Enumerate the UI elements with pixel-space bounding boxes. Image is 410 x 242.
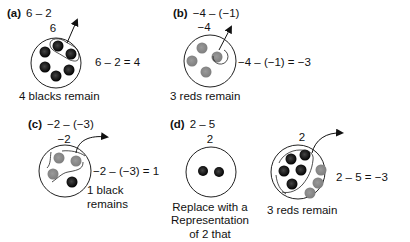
red-counter bbox=[313, 178, 324, 189]
panel-c-expression: −2 – (−3) bbox=[47, 118, 94, 130]
svg-text:(c)−2 – (−3): (c)−2 – (−3) bbox=[28, 118, 94, 130]
panel-b-circle-value: −4 bbox=[197, 21, 211, 33]
black-counter bbox=[40, 47, 51, 58]
panel-b-counters bbox=[187, 43, 223, 78]
black-counter bbox=[296, 165, 307, 176]
red-counter bbox=[201, 67, 212, 78]
black-counter bbox=[51, 71, 62, 82]
panel-c-caption-line1: 1 black bbox=[87, 184, 124, 196]
panel-d-replaced: 2 2 – 5 = −3 3 reds remain bbox=[267, 131, 388, 216]
panel-d-caption-line1: Replace with a bbox=[172, 201, 248, 213]
integer-subtraction-diagram: (a)6 – 2 6 6 – 2 = 4 4 blacks remain (b)… bbox=[0, 0, 410, 242]
panel-a-caption: 4 blacks remain bbox=[19, 90, 100, 102]
panel-b-expression: −4 – (−1) bbox=[193, 7, 240, 19]
panel-c: (c)−2 – (−3) −2 −2 – (−3) = 1 1 black re… bbox=[28, 118, 159, 210]
red-counter bbox=[54, 153, 65, 164]
panel-d-label: (d) bbox=[170, 118, 185, 130]
black-counter bbox=[66, 49, 77, 60]
panel-a-expression: 6 – 2 bbox=[26, 7, 52, 19]
panel-a-label: (a) bbox=[7, 7, 21, 19]
panel-c-caption-line2: remains bbox=[87, 198, 128, 210]
panel-a-circle-value: 6 bbox=[50, 22, 56, 34]
black-counter bbox=[198, 166, 208, 176]
panel-a: (a)6 – 2 6 6 – 2 = 4 4 blacks remain bbox=[7, 7, 141, 102]
panel-b-remove-arrow bbox=[219, 27, 231, 50]
panel-b-result: −4 – (−1) = −3 bbox=[238, 56, 311, 68]
black-counter bbox=[67, 177, 78, 188]
red-counter bbox=[197, 43, 208, 54]
panel-c-result: −2 – (−3) = 1 bbox=[93, 165, 159, 177]
panel-d-expression: 2 – 5 bbox=[190, 118, 216, 130]
panel-a-result: 6 – 2 = 4 bbox=[95, 56, 141, 68]
panel-d-replaced-caption: 3 reds remain bbox=[267, 204, 337, 216]
black-counter bbox=[300, 150, 311, 161]
red-counter bbox=[187, 56, 198, 67]
panel-c-circle-value: −2 bbox=[57, 133, 70, 145]
panel-b: (b)−4 – (−1) −4 −4 – (−1) = −3 3 reds re… bbox=[170, 7, 311, 102]
panel-b-label: (b) bbox=[173, 7, 188, 19]
svg-text:(b)−4 – (−1): (b)−4 – (−1) bbox=[173, 7, 240, 19]
panel-d-set-circle bbox=[186, 147, 236, 197]
panel-a-counters bbox=[40, 41, 77, 82]
panel-d-circle-value: 2 bbox=[207, 133, 213, 145]
black-counter bbox=[214, 167, 224, 177]
panel-d: (d)2 – 5 2 Replace with a Representation… bbox=[170, 118, 388, 240]
panel-d-replaced-result: 2 – 5 = −3 bbox=[336, 171, 388, 183]
panel-d-caption-line3: of 2 that bbox=[189, 228, 231, 240]
red-counter bbox=[305, 188, 316, 199]
panel-d-caption-line2: Representation bbox=[171, 214, 249, 226]
panel-c-label: (c) bbox=[28, 118, 42, 130]
black-counter bbox=[64, 65, 75, 76]
panel-a-remove-arrow bbox=[67, 20, 77, 43]
panel-d-counters bbox=[198, 166, 224, 177]
panel-d-replaced-counters bbox=[279, 150, 327, 199]
black-counter bbox=[53, 41, 64, 52]
black-counter bbox=[286, 154, 297, 165]
panel-d-replaced-circle-value: 2 bbox=[299, 131, 305, 143]
black-counter bbox=[287, 179, 298, 190]
red-counter bbox=[316, 165, 327, 176]
panel-c-set-circle bbox=[39, 145, 91, 197]
panel-d-remove-arrow bbox=[312, 133, 342, 153]
black-counter bbox=[279, 166, 290, 177]
panel-b-caption: 3 reds remain bbox=[170, 90, 240, 102]
red-counter bbox=[71, 156, 82, 167]
svg-text:(a)6 – 2: (a)6 – 2 bbox=[7, 7, 52, 19]
svg-text:(d)2 – 5: (d)2 – 5 bbox=[170, 118, 215, 130]
black-counter bbox=[40, 62, 51, 73]
